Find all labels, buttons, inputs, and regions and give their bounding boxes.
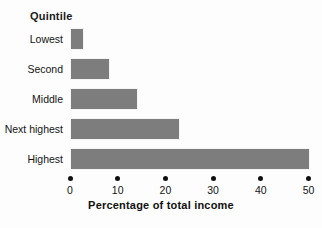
bar-lowest[interactable] [70, 28, 84, 50]
bar-next-highest[interactable] [70, 118, 180, 140]
x-tick-label-30: 30 [198, 184, 228, 196]
bar-middle[interactable] [70, 88, 138, 110]
plot-area: Lowest Second Middle Next highest Highes… [70, 28, 322, 176]
bar-chart: Quintile Lowest Second Middle Next highe… [0, 0, 322, 228]
x-tick-label-40: 40 [246, 184, 276, 196]
category-axis-title: Quintile [30, 10, 73, 22]
x-tick-dot [211, 176, 216, 181]
x-tick-dot [258, 176, 263, 181]
x-tick-dot [115, 176, 120, 181]
category-label-lowest: Lowest [0, 28, 63, 50]
category-label-next-highest: Next highest [0, 118, 63, 140]
x-tick-label-50: 50 [294, 184, 322, 196]
bar-highest[interactable] [70, 148, 310, 170]
category-label-second: Second [0, 58, 63, 80]
x-tick-dot [306, 176, 311, 181]
x-tick-dot [163, 176, 168, 181]
x-axis: 0 10 20 30 40 50 [70, 176, 322, 196]
x-axis-title: Percentage of total income [0, 199, 322, 211]
x-tick-label-20: 20 [150, 184, 180, 196]
x-tick-label-10: 10 [103, 184, 133, 196]
bar-second[interactable] [70, 58, 110, 80]
category-label-highest: Highest [0, 148, 63, 170]
x-tick-dot [68, 176, 73, 181]
category-label-middle: Middle [0, 88, 63, 110]
x-tick-label-0: 0 [55, 184, 85, 196]
